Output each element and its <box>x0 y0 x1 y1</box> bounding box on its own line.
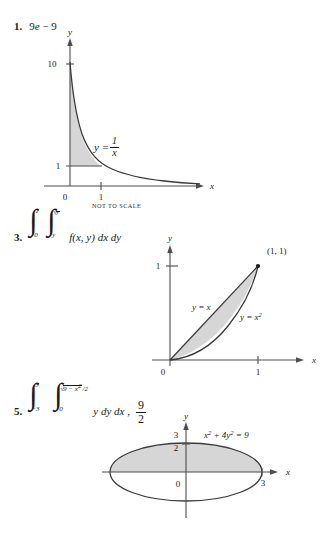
x-axis-arrow-3 <box>296 357 304 362</box>
radicand: 9 − x2 <box>63 385 82 389</box>
upper-limit-divisor: /2 <box>82 385 87 393</box>
y-axis-arrow-1 <box>67 38 72 46</box>
figure-problem-5: 3 2 3 0 y x x2 + 4y2 = 9 <box>86 414 296 538</box>
x-axis-arrow-5 <box>270 469 278 474</box>
problem-1-number: 1. <box>14 20 22 32</box>
x-tick-label-3-fig5: 3 <box>261 478 266 488</box>
one-over-x-fraction: 1x <box>110 136 119 158</box>
y-tick-label-2-fig5: 2 <box>174 443 179 453</box>
not-to-scale-note: NOT TO SCALE <box>92 202 141 209</box>
inner-upper-limit-5: √9 − x2/2 <box>60 385 88 389</box>
y-axis-label-1: y <box>67 27 72 37</box>
x-tick-label-1: 1 <box>99 192 104 202</box>
fraction-denominator: x <box>110 148 119 159</box>
y-tick-label-10: 10 <box>48 59 58 69</box>
label-y-equals-x: y = x <box>191 302 211 312</box>
radicand-text: 9 − x <box>63 385 78 393</box>
point-1-1-marker <box>256 264 260 268</box>
inner-integral-3: ∫ √y y <box>47 224 56 250</box>
problem-3-number: 3. <box>14 231 22 243</box>
curve-label-one-over-x: y =1x <box>94 136 120 158</box>
problem-5-number: 5. <box>14 405 22 417</box>
origin-label-fig3: 0 <box>161 367 166 377</box>
y-tick-label-1: 1 <box>56 161 61 171</box>
label-y-equals-x-squared: y = x2 <box>239 311 263 322</box>
ellipse-equation-label: x2 + 4y2 = 9 <box>203 429 249 440</box>
y-axis-label-5: y <box>183 411 188 421</box>
inner-upper-limit-3: √y <box>53 211 60 212</box>
answer-key-page: 1. 9e − 9 10 1 1 <box>0 0 328 540</box>
point-label-1-1: (1, 1) <box>267 246 287 256</box>
radicand-exponent: 2 <box>78 382 82 390</box>
y-axis-arrow-3 <box>167 245 172 253</box>
figure-3-svg: 1 1 0 y x (1, 1) y = x y = x2 <box>146 232 324 384</box>
integrand-3: f(x, y) dx dy <box>69 231 121 243</box>
curve-label-lhs: y = <box>94 141 109 153</box>
y-axis-arrow-5 <box>183 422 188 430</box>
radicand: y <box>56 211 60 212</box>
x-axis-label-3: x <box>311 355 316 365</box>
figure-problem-3: 1 1 0 y x (1, 1) y = x y = x2 <box>146 232 324 384</box>
outer-integral-5: ∫ 3 −3 <box>29 398 38 424</box>
y-tick-label-1-fig3: 1 <box>156 261 161 271</box>
outer-integral-3: ∫ 1 0 <box>29 224 38 250</box>
x-axis-label-1: x <box>209 181 214 191</box>
figure-1-svg: 10 1 1 0 y x <box>22 26 218 202</box>
x-tick-label-1-fig3: 1 <box>256 367 261 377</box>
origin-label-fig5: 0 <box>176 479 181 489</box>
x-axis-label-5: x <box>285 467 290 477</box>
inner-integral-5: ∫ √9 − x2/2 0 <box>54 398 63 424</box>
figure-5-svg: 3 2 3 0 y x x2 + 4y2 = 9 <box>86 414 296 538</box>
fraction-numerator: 1 <box>110 136 119 148</box>
figure-problem-1: 10 1 1 0 y x <box>22 26 218 202</box>
x-tick-label-0: 0 <box>63 192 68 202</box>
y-tick-label-3-fig5: 3 <box>174 430 179 440</box>
problem-3-answer: 3. ∫ 1 0 ∫ √y y f(x, y) dx dy <box>14 224 121 250</box>
y-axis-label-3: y <box>167 233 172 243</box>
answer-numerator: 9 <box>136 399 146 413</box>
